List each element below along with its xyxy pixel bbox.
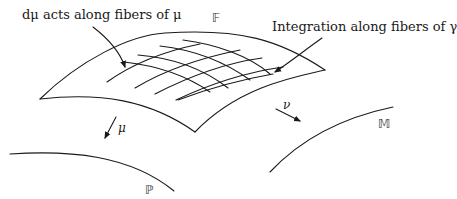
space-M-label: 𝕄	[378, 118, 390, 130]
left-callout-arrow	[93, 27, 125, 67]
map-mu-label: μ	[118, 122, 126, 134]
fiber-mu-5	[178, 74, 273, 100]
base-M-curve	[270, 107, 393, 172]
surface-F-right-edge	[195, 70, 325, 132]
left-callout-label: dμ acts along fibers of μ	[22, 8, 181, 21]
fiber-mu-3	[155, 58, 262, 94]
fiber-mu-2	[135, 50, 240, 88]
fiber-mu-1	[107, 44, 200, 82]
mu-map-arrow	[105, 117, 116, 138]
space-P-label: ℙ	[145, 184, 153, 196]
right-callout-arrow	[275, 38, 322, 72]
map-nu-label: ν	[283, 99, 290, 111]
space-F-label: 𝔽	[212, 12, 220, 24]
right-callout-label: Integration along fibers of γ	[272, 20, 457, 33]
